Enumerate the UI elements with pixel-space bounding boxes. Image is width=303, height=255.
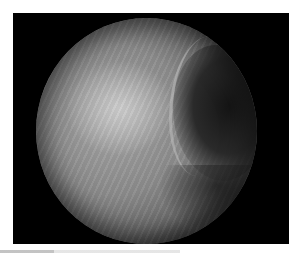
- endoscopic-view: [36, 18, 257, 244]
- vignette: [36, 18, 257, 244]
- cropped-caption: [0, 250, 180, 253]
- caption-strip: [0, 248, 303, 255]
- image-frame: [13, 13, 289, 244]
